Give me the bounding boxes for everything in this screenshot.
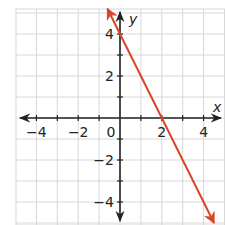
y-axis-label: y <box>128 11 138 27</box>
coordinate-plane: −4−2024−4−224 x y <box>0 0 225 225</box>
x-tick-label: −2 <box>68 124 89 140</box>
y-tick-label: 4 <box>105 26 114 42</box>
y-tick-label: 2 <box>105 68 114 84</box>
x-tick-label: 0 <box>107 124 116 140</box>
x-tick-label: −4 <box>26 124 47 140</box>
x-tick-label: 4 <box>199 124 208 140</box>
y-tick-label: −2 <box>93 152 114 168</box>
x-axis-label: x <box>212 99 222 115</box>
y-tick-label: −4 <box>93 194 114 210</box>
